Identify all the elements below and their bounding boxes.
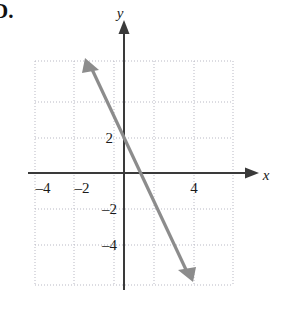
y-axis-label: y — [115, 5, 124, 21]
line-arrowhead-upper — [82, 58, 99, 73]
x-axis-label: x — [262, 167, 270, 183]
y-tick-label-neg2: –2 — [101, 201, 117, 217]
y-tick-label-neg4: –4 — [101, 237, 118, 253]
y-tick-label-pos2: 2 — [106, 130, 114, 146]
x-tick-label-pos4: 4 — [190, 180, 198, 196]
graph-figure: D. — [0, 0, 286, 309]
y-axis — [119, 20, 130, 290]
x-axis-arrowhead — [245, 168, 259, 179]
x-tick-label-neg2: –2 — [74, 180, 90, 196]
plotted-line — [82, 58, 196, 282]
x-tick-label-neg4: –4 — [35, 180, 52, 196]
y-axis-arrowhead — [119, 20, 130, 34]
line-arrowhead-lower — [178, 267, 196, 282]
coordinate-plane: x y –4 –2 4 2 –2 –4 — [0, 0, 286, 309]
